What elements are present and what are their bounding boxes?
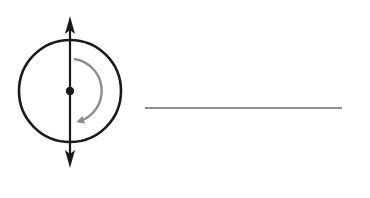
center-dot xyxy=(66,87,74,95)
clockwise-rotation-arrow-icon xyxy=(74,59,102,121)
rotation-diagram xyxy=(0,0,370,198)
